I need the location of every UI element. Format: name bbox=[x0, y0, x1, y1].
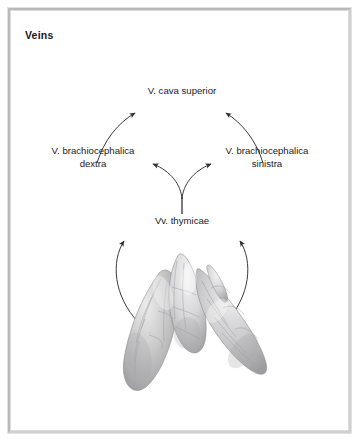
page-root: Veins bbox=[0, 0, 359, 441]
node-label-brachiocephalica-dextra-line2: dextra bbox=[80, 158, 107, 169]
node-label-brachiocephalica-sinistra: V. brachiocephalica sinistra bbox=[207, 145, 327, 170]
veins-diagram: V. cava superior V. brachiocephalica dex… bbox=[11, 11, 354, 436]
node-label-vena-cava-superior: V. cava superior bbox=[112, 85, 252, 98]
thymus-specimen-image bbox=[122, 254, 266, 391]
panel-frame-inner: Veins bbox=[10, 10, 349, 431]
node-label-brachiocephalica-sinistra-line2: sinistra bbox=[252, 158, 282, 169]
panel-frame: Veins bbox=[8, 8, 351, 433]
node-label-brachiocephalica-sinistra-line1: V. brachiocephalica bbox=[226, 145, 309, 156]
node-label-brachiocephalica-dextra-line1: V. brachiocephalica bbox=[52, 145, 135, 156]
arrow-specimen-left bbox=[116, 241, 139, 323]
arrow-thymicae-fork bbox=[153, 164, 211, 214]
node-label-brachiocephalica-dextra: V. brachiocephalica dextra bbox=[33, 145, 153, 170]
node-label-vv-thymicae: Vv. thymicae bbox=[122, 215, 242, 228]
